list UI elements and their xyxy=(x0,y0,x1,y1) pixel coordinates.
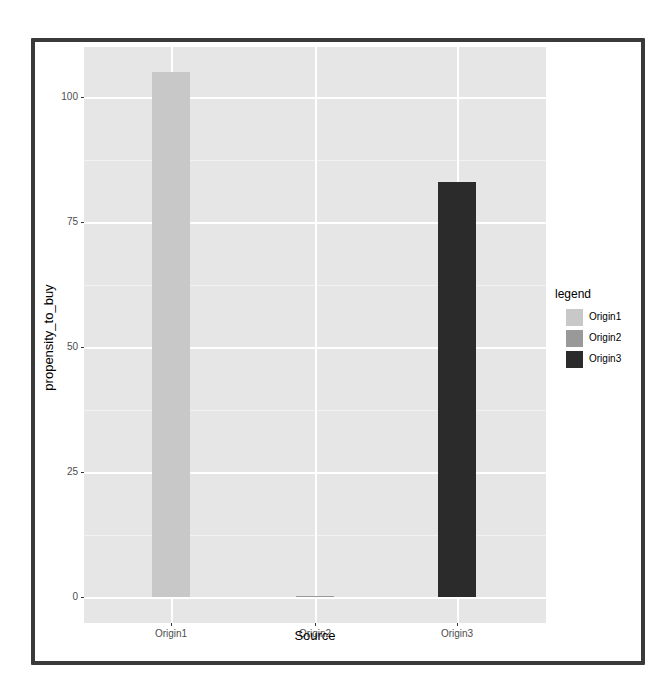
x-tick-mark xyxy=(315,623,316,626)
legend-key-origin3 xyxy=(566,351,583,368)
legend-label: Origin2 xyxy=(589,332,621,343)
plot-panel xyxy=(84,47,546,623)
y-axis-title: propensity_to_buy xyxy=(41,238,56,438)
x-tick-mark xyxy=(171,623,172,626)
x-tick-mark xyxy=(457,623,458,626)
y-tick-label: 75 xyxy=(38,216,78,227)
legend-key-origin2 xyxy=(566,330,583,347)
legend-label: Origin1 xyxy=(589,311,621,322)
legend-title: legend xyxy=(555,287,591,301)
x-tick-label: Origin1 xyxy=(131,628,211,639)
legend-label: Origin3 xyxy=(589,353,621,364)
bar-origin2 xyxy=(296,596,334,597)
x-tick-label: Origin3 xyxy=(417,628,497,639)
bar-origin1 xyxy=(152,72,190,597)
y-tick-mark xyxy=(81,597,84,598)
bar-origin3 xyxy=(438,182,476,597)
legend-key-origin1 xyxy=(566,309,583,326)
y-tick-mark xyxy=(81,472,84,473)
x-axis-title: Source xyxy=(255,628,375,643)
y-tick-mark xyxy=(81,347,84,348)
y-tick-label: 25 xyxy=(38,466,78,477)
vertical-gridline xyxy=(315,47,317,623)
y-tick-mark xyxy=(81,222,84,223)
y-tick-label: 0 xyxy=(38,591,78,602)
y-tick-label: 100 xyxy=(38,91,78,102)
y-tick-mark xyxy=(81,97,84,98)
